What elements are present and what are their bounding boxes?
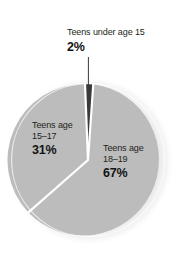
pie-chart-figure: Teens under age 15 2% Teens age 15–17 31… [0, 0, 177, 258]
pie-label-age-18-19: Teens age 18–19 67% [103, 143, 144, 180]
pie-label-age-15-17: Teens age 15–17 31% [32, 120, 73, 157]
pie-label-age-15-17-value: 31% [32, 143, 73, 158]
pie-label-age-15-17-text-line1: Teens age [32, 120, 73, 131]
pie-label-age-18-19-text-line2: 18–19 [103, 154, 144, 165]
pie-label-age-18-19-text-line1: Teens age [103, 143, 144, 154]
pie-label-under-age-15-text: Teens under age 15 [67, 27, 145, 38]
pie-label-under-age-15: Teens under age 15 2% [67, 27, 145, 54]
pie-label-age-18-19-value: 67% [103, 166, 144, 181]
pie-label-age-15-17-text-line2: 15–17 [32, 131, 73, 142]
pie-label-under-age-15-value: 2% [67, 40, 145, 55]
